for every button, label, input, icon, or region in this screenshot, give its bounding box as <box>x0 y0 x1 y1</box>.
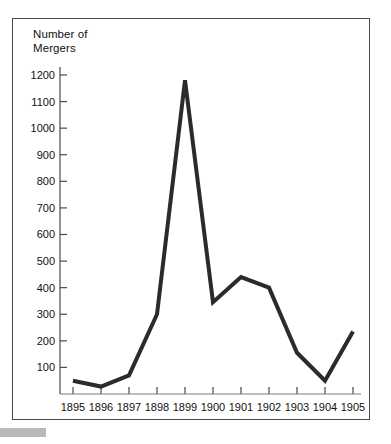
y-tick-label: 800 <box>37 175 55 187</box>
data-series-line <box>73 80 353 386</box>
y-tick-label: 400 <box>37 282 55 294</box>
y-tick-label: 500 <box>37 255 55 267</box>
x-tick-label: 1898 <box>145 401 169 413</box>
y-tick-label: 100 <box>37 361 55 373</box>
y-tick-label: 600 <box>37 228 55 240</box>
x-tick-label: 1899 <box>173 401 197 413</box>
chart-page: Number of Mergers 1002003004005006007008… <box>0 0 391 444</box>
x-tick-label: 1901 <box>229 401 253 413</box>
x-tick-label: 1897 <box>117 401 141 413</box>
x-axis-ticks <box>73 387 353 394</box>
page-edge-artifact <box>0 428 46 437</box>
x-tick-label: 1903 <box>285 401 309 413</box>
x-tick-label: 1905 <box>341 401 365 413</box>
x-tick-label: 1900 <box>201 401 225 413</box>
y-tick-label: 700 <box>37 202 55 214</box>
y-tick-label: 1100 <box>31 96 55 108</box>
y-axis-tick-labels: 100200300400500600700800900100011001200 <box>31 69 55 373</box>
y-tick-label: 200 <box>37 335 55 347</box>
line-chart-plot: 100200300400500600700800900100011001200 … <box>13 19 369 419</box>
y-tick-label: 300 <box>37 308 55 320</box>
y-tick-label: 900 <box>37 149 55 161</box>
x-tick-label: 1895 <box>61 401 85 413</box>
y-tick-label: 1200 <box>31 69 55 81</box>
y-tick-label: 1000 <box>31 122 55 134</box>
x-axis-tick-labels: 1895189618971898189919001901190219031904… <box>61 401 365 413</box>
chart-frame: Number of Mergers 1002003004005006007008… <box>12 18 370 420</box>
x-tick-label: 1902 <box>257 401 281 413</box>
x-tick-label: 1896 <box>89 401 113 413</box>
y-axis-ticks <box>60 75 67 367</box>
x-tick-label: 1904 <box>313 401 337 413</box>
